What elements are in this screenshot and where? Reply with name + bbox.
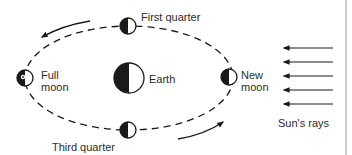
orbit-direction-arrow-bottom: [178, 122, 223, 139]
full-moon-icon: [17, 70, 33, 86]
full-moon-label: Full moon: [41, 69, 69, 93]
first-quarter-label: First quarter: [141, 11, 200, 23]
earth-label: Earth: [149, 73, 175, 85]
new-moon-icon: [221, 69, 237, 85]
third-quarter-moon-icon: [120, 122, 136, 138]
third-quarter-label: Third quarter: [52, 141, 115, 153]
orbit-direction-arrow-top: [42, 21, 90, 37]
sun-rays-label: Sun's rays: [278, 117, 329, 129]
first-quarter-moon-icon: [120, 18, 136, 34]
earth-icon: [114, 63, 144, 93]
sun-rays-arrows: [284, 48, 333, 104]
new-moon-label: New moon: [241, 69, 269, 93]
